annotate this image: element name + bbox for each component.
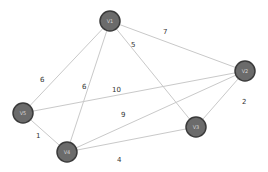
node-label: V2 <box>242 68 249 74</box>
graph-canvas: 7566101942 V1V2V3V4V5 <box>0 0 268 172</box>
node-label: V3 <box>193 124 200 130</box>
node-label: V4 <box>64 149 71 155</box>
node-v3[interactable]: V3 <box>186 117 206 137</box>
node-v5[interactable]: V5 <box>13 103 33 123</box>
edge-weight-label: 2 <box>242 98 246 106</box>
edge-weight-label: 1 <box>36 132 40 140</box>
edge-v1-v4 <box>67 21 110 152</box>
node-label: V5 <box>20 110 27 116</box>
edge-v4-v2 <box>67 71 245 152</box>
edge-v3-v2 <box>196 71 245 127</box>
edge-weight-label: 5 <box>131 41 135 49</box>
edge-weight-label: 7 <box>163 28 167 36</box>
edge-weight-label: 9 <box>121 111 125 119</box>
node-v1[interactable]: V1 <box>100 11 120 31</box>
edge-v4-v3 <box>67 127 196 152</box>
node-label: V1 <box>107 18 114 24</box>
edge-weight-label: 6 <box>40 76 45 84</box>
edge-weight-label: 10 <box>112 86 121 94</box>
edge-weight-label: 6 <box>82 83 87 91</box>
node-v2[interactable]: V2 <box>235 61 255 81</box>
node-v4[interactable]: V4 <box>57 142 77 162</box>
edge-weight-label: 4 <box>117 156 122 164</box>
